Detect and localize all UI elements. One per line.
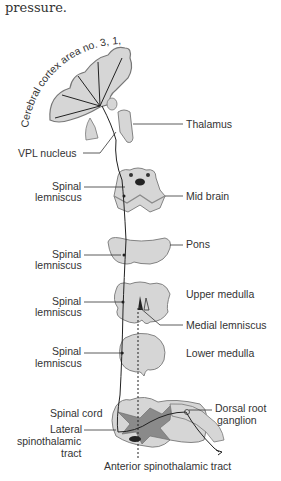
midbrain-shape xyxy=(114,168,165,212)
label-anterior-st: Anterior spinothalamic tract xyxy=(104,460,231,472)
label-spinal-lemniscus-3b: lemniscus xyxy=(35,306,82,318)
lateral-spinothalamic-pathway xyxy=(102,106,219,452)
lower-medulla-shape xyxy=(120,333,165,376)
label-vpl-nucleus: VPL nucleus xyxy=(18,147,77,159)
spinothalamic-pathway-diagram: Cerebral cortex area no. 3, 1, 2 Thalamu… xyxy=(0,0,281,481)
spinal-cord-shape xyxy=(112,397,224,447)
label-lateral-st-a: Lateral xyxy=(50,423,82,435)
pons-shape xyxy=(108,238,170,265)
label-spinal-cord: Spinal cord xyxy=(50,407,103,419)
label-upper-medulla: Upper medulla xyxy=(186,288,254,300)
label-lateral-st-b: spinothalamic xyxy=(17,435,81,447)
label-medial-lemniscus: Medial lemniscus xyxy=(186,319,267,331)
label-lower-medulla: Lower medulla xyxy=(186,347,254,359)
label-spinal-lemniscus-2b: lemniscus xyxy=(35,259,82,271)
label-pons: Pons xyxy=(186,238,210,250)
cortex-oval xyxy=(107,98,117,110)
label-spinal-lemniscus-1b: lemniscus xyxy=(35,191,82,203)
label-lateral-st-c: tract xyxy=(61,447,82,459)
thalamus-shape xyxy=(118,110,133,143)
label-mid-brain: Mid brain xyxy=(186,190,229,202)
label-spinal-lemniscus-4a: Spinal xyxy=(52,345,81,357)
label-thalamus: Thalamus xyxy=(186,118,232,130)
label-dorsal-root-b: ganglion xyxy=(217,414,257,426)
vpl-nucleus-shape xyxy=(86,118,99,140)
label-spinal-lemniscus-4b: lemniscus xyxy=(35,357,82,369)
label-dorsal-root-a: Dorsal root xyxy=(215,402,266,414)
